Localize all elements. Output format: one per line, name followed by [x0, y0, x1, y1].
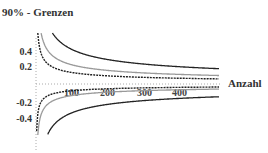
series-line-3 — [37, 87, 219, 131]
series-line-1 — [41, 33, 219, 75]
series-line-5 — [48, 97, 219, 135]
plot-area — [0, 0, 268, 153]
series-line-4 — [38, 89, 219, 135]
series-line-0 — [53, 33, 220, 69]
